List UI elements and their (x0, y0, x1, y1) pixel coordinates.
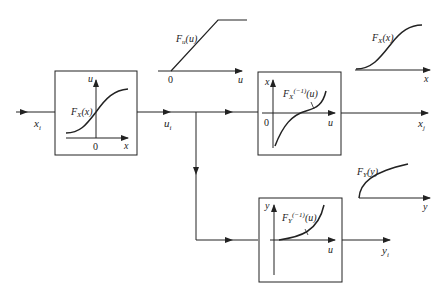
arrow-icon (193, 167, 199, 175)
svg-text:FY(−1)(u): FY(−1)(u) (281, 211, 317, 225)
inverse-transform-diagram: xi u x 0 FX(x) ui 0 u Fu(u) (0, 0, 444, 298)
svg-text:FX(x): FX(x) (371, 32, 394, 45)
svg-text:y: y (422, 201, 428, 212)
inverse-cdf-x-block: x u 0 FX(−1)(u) (258, 72, 341, 155)
svg-text:xj: xj (417, 117, 425, 132)
cdf-block: u x 0 FX(x) (55, 71, 137, 155)
arrow-icon (163, 109, 171, 115)
svg-text:y: y (264, 200, 270, 211)
svg-text:ui: ui (164, 117, 172, 132)
output-y-signal: yi (342, 240, 390, 259)
output-x-signal: xj (341, 113, 428, 132)
svg-text:x: x (123, 140, 129, 151)
target-cdf-x-plot: FX(x) x (355, 25, 430, 84)
arrow-icon (20, 109, 28, 115)
svg-text:FX(−1)(u): FX(−1)(u) (282, 87, 319, 101)
svg-text:0: 0 (93, 141, 98, 152)
svg-text:yi: yi (381, 244, 389, 259)
uniform-cdf-plot: 0 u Fu(u) (158, 20, 247, 85)
svg-text:u: u (328, 117, 333, 128)
arrow-icon (225, 237, 233, 243)
arrow-icon (225, 109, 233, 115)
svg-text:FY(y): FY(y) (356, 166, 379, 179)
inverse-cdf-y-block: y u FY(−1)(u) (259, 198, 342, 282)
svg-text:0: 0 (168, 74, 173, 85)
intermediate-signal: ui (137, 109, 258, 243)
svg-text:x: x (264, 76, 270, 87)
svg-text:xi: xi (33, 117, 41, 132)
svg-text:0: 0 (264, 117, 269, 128)
input-signal: xi (16, 109, 55, 132)
svg-text:u: u (88, 73, 93, 84)
svg-text:FX(x): FX(x) (70, 106, 93, 119)
svg-text:x: x (423, 73, 429, 84)
svg-text:u: u (238, 74, 243, 85)
target-cdf-y-plot: FY(y) y (356, 164, 430, 212)
svg-text:Fu(u): Fu(u) (175, 33, 198, 46)
svg-text:u: u (328, 244, 333, 255)
